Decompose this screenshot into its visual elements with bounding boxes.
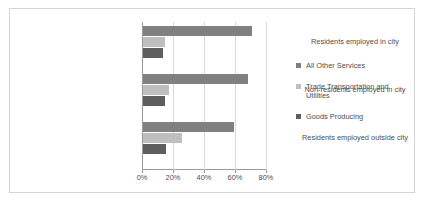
x-axis-tick-label: 0%	[130, 173, 154, 182]
category-label: Residents employed in city	[296, 37, 414, 47]
x-axis-tick-label: 80%	[254, 173, 278, 182]
bar	[143, 133, 182, 143]
legend-item: Trade Transportation and Utilities	[296, 82, 408, 101]
bar	[143, 122, 234, 132]
gridline	[204, 22, 205, 170]
x-axis-tick-label: 60%	[223, 173, 247, 182]
legend-label: Trade Transportation and Utilities	[306, 82, 408, 101]
legend-label: All Other Services	[306, 61, 408, 71]
gridline	[173, 22, 174, 170]
bar	[143, 26, 252, 36]
plot-area	[142, 22, 267, 170]
legend-swatch-icon	[296, 63, 301, 68]
bar	[143, 96, 165, 106]
bar	[143, 85, 169, 95]
bar	[143, 144, 166, 154]
legend-item: All Other Services	[296, 61, 408, 71]
bar	[143, 74, 248, 84]
category-label: Residents employed outside city	[296, 133, 414, 143]
gridline	[235, 22, 236, 170]
bar	[143, 48, 163, 58]
gridline	[266, 22, 267, 170]
x-axis-tick-label: 20%	[161, 173, 185, 182]
chart-frame: Residents employed in cityNon-residents …	[9, 8, 415, 193]
legend-label: Goods Producing	[306, 112, 408, 122]
legend-swatch-icon	[296, 114, 301, 119]
legend-item: Goods Producing	[296, 112, 408, 122]
x-axis-tick-label: 40%	[192, 173, 216, 182]
legend-swatch-icon	[296, 84, 301, 89]
chart-legend: All Other ServicesTrade Transportation a…	[296, 61, 408, 132]
bar	[143, 37, 165, 47]
